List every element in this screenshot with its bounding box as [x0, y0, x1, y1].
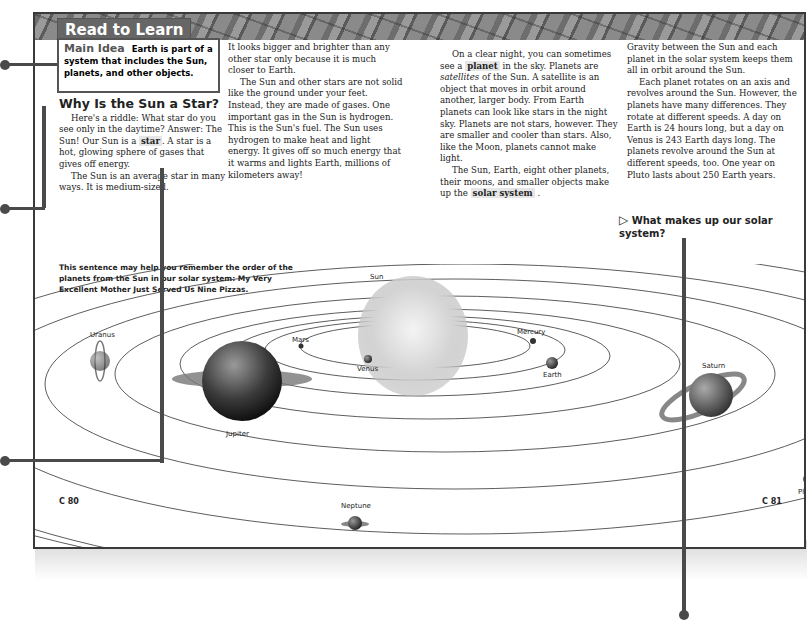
page-number-left: C 80 — [59, 497, 79, 506]
callout-dot-vocab — [0, 456, 10, 466]
triangle-arrow-icon: ▷ — [619, 213, 628, 227]
page-number-right: C 81 — [762, 497, 782, 506]
pluto-illustration — [803, 474, 804, 484]
mercury-illustration — [530, 338, 536, 344]
neptune-illustration — [348, 516, 362, 530]
paragraph: Gravity between the Sun and each planet … — [627, 42, 797, 77]
column-1: Why Is the Sun a Star? Here's a riddle: … — [59, 98, 227, 194]
label-mars: Mars — [292, 336, 309, 344]
saturn-illustration — [689, 373, 733, 417]
paragraph: The Sun is an average star in many ways.… — [59, 171, 227, 194]
question-text: What makes up our solar system? — [619, 215, 773, 239]
label-jupiter: Jupiter — [225, 430, 249, 438]
paragraph: The Sun and other stars are not solid li… — [228, 77, 403, 181]
callout-line-vocab-horizontal — [5, 459, 164, 462]
label-pluto: Pluto — [798, 488, 804, 496]
main-idea-label: Main Idea — [64, 42, 125, 55]
venus-illustration — [364, 355, 372, 363]
solar-system-diagram: Sun Mercury Venus Earth Mars Jupiter Sat… — [35, 264, 804, 547]
column-2: It looks bigger and brighter than any ot… — [228, 42, 403, 181]
label-earth: Earth — [543, 371, 562, 379]
textbook-spread: Read to Learn Main Idea Earth is part of… — [33, 12, 806, 549]
callout-sidebar-bar — [42, 106, 46, 208]
sun-illustration — [358, 276, 468, 396]
review-question: ▷ What makes up our solar system? — [619, 214, 789, 240]
earth-illustration — [546, 357, 558, 369]
label-sun: Sun — [370, 273, 383, 281]
paragraph: On a clear night, you can sometimes see … — [440, 49, 618, 165]
callout-line-heading — [5, 207, 45, 210]
vocab-planet[interactable]: planet — [465, 61, 500, 71]
paragraph: It looks bigger and brighter than any ot… — [228, 42, 403, 77]
paragraph: The Sun, Earth, eight other planets, the… — [440, 165, 618, 200]
paragraph: Each planet rotates on an axis and revol… — [627, 77, 797, 181]
column-3: On a clear night, you can sometimes see … — [440, 49, 618, 200]
callout-line-question — [682, 238, 686, 613]
label-neptune: Neptune — [341, 502, 371, 510]
column-4: Gravity between the Sun and each planet … — [627, 42, 797, 181]
main-idea-box: Main Idea Earth is part of a system that… — [57, 38, 220, 93]
label-uranus: Uranus — [90, 331, 115, 339]
vocab-solar-system[interactable]: solar system — [471, 188, 535, 198]
label-mercury: Mercury — [517, 328, 545, 336]
label-saturn: Saturn — [702, 362, 725, 370]
section-heading: Why Is the Sun a Star? — [59, 98, 227, 110]
paragraph: Here's a riddle: What star do you see on… — [59, 113, 227, 171]
callout-dot-question — [679, 610, 689, 620]
uranus-illustration — [90, 351, 110, 371]
jupiter-illustration — [202, 341, 282, 421]
vocab-star[interactable]: star — [139, 136, 162, 146]
callout-line-vocab-vertical — [160, 168, 164, 463]
label-venus: Venus — [357, 365, 378, 373]
mars-illustration — [299, 344, 304, 349]
